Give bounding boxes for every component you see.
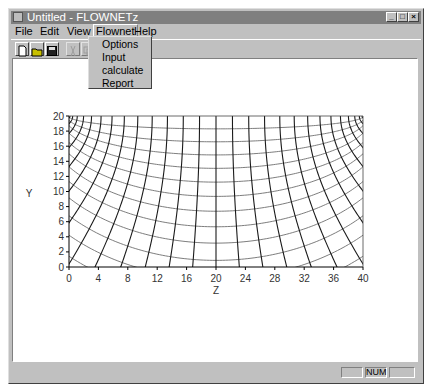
- menu-edit[interactable]: Edit: [40, 25, 59, 38]
- x-tick-label: 16: [181, 273, 193, 284]
- x-tick-label: 36: [328, 273, 340, 284]
- x-tick-label: 28: [269, 273, 281, 284]
- x-tick-label: 4: [96, 273, 102, 284]
- cut-button[interactable]: [66, 42, 80, 56]
- x-tick-label: 20: [210, 273, 222, 284]
- y-tick-label: 0: [58, 262, 64, 273]
- x-tick-label: 24: [240, 273, 252, 284]
- flownet-menu-dropdown: Options Input calculate Report: [88, 36, 152, 89]
- y-tick-label: 8: [58, 201, 64, 212]
- flow-line: [13, 116, 92, 361]
- new-file-button[interactable]: [15, 42, 29, 56]
- status-pane-3: [389, 367, 415, 378]
- flow-line: [340, 116, 417, 361]
- open-button[interactable]: [30, 42, 44, 56]
- y-tick-label: 10: [53, 186, 65, 197]
- flow-line: [13, 116, 138, 361]
- menu-file[interactable]: File: [15, 25, 33, 38]
- x-tick-label: 0: [66, 273, 72, 284]
- menu-item-input[interactable]: Input: [102, 51, 125, 63]
- save-disk-icon: [46, 45, 58, 57]
- equipotential-line: [13, 116, 417, 341]
- app-icon[interactable]: [13, 12, 23, 22]
- y-tick-label: 18: [53, 126, 65, 137]
- y-tick-label: 16: [53, 141, 65, 152]
- y-tick-label: 12: [53, 171, 65, 182]
- flow-line: [13, 116, 101, 361]
- flow-line: [355, 116, 417, 338]
- toolbar: [11, 39, 421, 58]
- minimize-button[interactable]: _: [386, 12, 397, 22]
- flow-line: [362, 116, 417, 191]
- equipotential-line: [13, 116, 417, 298]
- y-tick-label: 20: [53, 111, 65, 122]
- save-button[interactable]: [45, 42, 59, 56]
- flownet-chart: 048121620242832364002468101214161820ZY: [13, 59, 417, 361]
- x-axis-label: Z: [213, 285, 219, 296]
- app-window: Untitled - FLOWNETz _ □ × File Edit View…: [8, 8, 424, 384]
- x-tick-label: 8: [125, 273, 131, 284]
- y-tick-label: 4: [58, 231, 64, 242]
- flow-line: [265, 116, 417, 361]
- status-pane-num: NUM: [365, 367, 387, 378]
- flow-line: [13, 116, 167, 361]
- flownet-lines: [13, 116, 417, 361]
- flow-line: [294, 116, 417, 361]
- title-bar[interactable]: Untitled - FLOWNETz _ □ ×: [11, 11, 421, 24]
- open-folder-icon: [31, 45, 43, 57]
- x-tick-label: 32: [299, 273, 311, 284]
- flow-line: [13, 116, 84, 361]
- menu-item-report[interactable]: Report: [102, 77, 134, 89]
- new-file-icon: [16, 45, 28, 57]
- y-axis-label: Y: [26, 188, 33, 199]
- status-bar: NUM: [11, 364, 421, 381]
- status-pane-1: [341, 367, 363, 378]
- cut-icon: [67, 45, 79, 57]
- menu-bar: File Edit View Flownet Help: [11, 25, 421, 38]
- close-button[interactable]: ×: [408, 12, 419, 22]
- menu-item-options[interactable]: Options: [102, 38, 138, 50]
- x-tick-label: 12: [152, 273, 164, 284]
- chart-canvas: 048121620242832364002468101214161820ZY: [12, 58, 418, 362]
- flow-line: [13, 116, 77, 338]
- flow-line: [331, 116, 417, 361]
- window-title: Untitled - FLOWNETz: [27, 11, 138, 24]
- y-tick-label: 14: [53, 156, 65, 167]
- menu-item-calculate[interactable]: calculate: [102, 64, 143, 76]
- flow-line: [320, 116, 417, 361]
- maximize-button[interactable]: □: [397, 12, 408, 22]
- x-tick-label: 40: [357, 273, 369, 284]
- y-tick-label: 6: [58, 216, 64, 227]
- y-tick-label: 2: [58, 246, 64, 257]
- flow-line: [359, 116, 417, 266]
- equipotential-line: [13, 116, 417, 279]
